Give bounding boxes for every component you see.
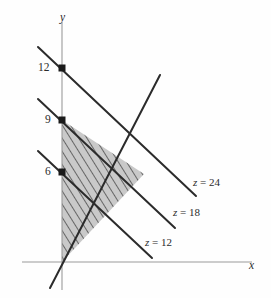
tick-label-6: 6 — [45, 166, 51, 178]
y-axis-label: y — [60, 12, 65, 24]
linear-programming-plot — [0, 0, 271, 298]
z-value-18: 18 — [189, 206, 200, 218]
point-marker-9 — [59, 117, 66, 124]
objective-label-z24: z = 24 — [193, 177, 220, 188]
eq-symbol-12: = — [149, 236, 161, 248]
z-value-12: 12 — [161, 236, 172, 248]
axes-group — [22, 22, 252, 290]
eq-symbol-24: = — [197, 176, 209, 188]
x-axis-label: x — [249, 260, 254, 272]
figure-container: y x 12 9 6 z = 24 z = 18 z = 12 — [0, 0, 271, 298]
eq-symbol-18: = — [177, 206, 189, 218]
point-marker-6 — [59, 169, 66, 176]
tick-label-9: 9 — [45, 114, 51, 126]
tick-label-12: 12 — [38, 62, 50, 74]
objective-label-z12: z = 12 — [145, 237, 172, 248]
z-value-24: 24 — [209, 176, 220, 188]
objective-label-z18: z = 18 — [173, 207, 200, 218]
point-marker-12 — [59, 65, 66, 72]
